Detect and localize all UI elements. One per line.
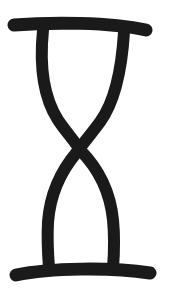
glyph-canvas [0,0,170,298]
lower-left-stroke [48,152,77,268]
hourglass-icon [0,0,170,298]
upper-right-stroke [77,32,124,152]
lower-right-stroke [80,150,114,268]
bottom-bar [16,269,150,275]
upper-left-stroke [42,30,80,150]
